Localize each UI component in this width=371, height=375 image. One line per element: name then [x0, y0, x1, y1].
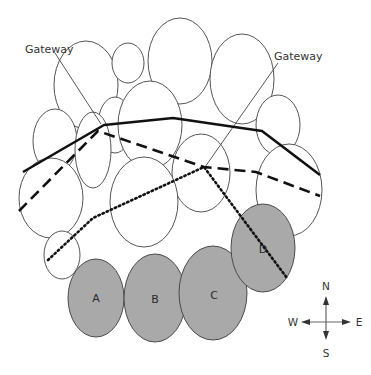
- cluster-diagram: Gateway Gateway A B C D N S W E: [0, 0, 371, 375]
- gateway-label-left: Gateway: [25, 43, 74, 56]
- zone-label-b: B: [151, 293, 159, 306]
- arrow-west-icon: [301, 319, 310, 325]
- compass-north-label: N: [322, 280, 330, 292]
- arrow-north-icon: [323, 296, 329, 305]
- cell: [44, 231, 80, 279]
- cell: [112, 43, 144, 83]
- zone-label-a: A: [92, 292, 100, 305]
- arrow-east-icon: [342, 319, 351, 325]
- cell: [172, 134, 230, 212]
- zone-label-d: D: [259, 243, 267, 256]
- compass-west-label: W: [288, 316, 299, 328]
- gateway-label-right: Gateway: [274, 50, 323, 63]
- zone-label-c: C: [210, 289, 218, 302]
- arrow-south-icon: [323, 331, 329, 340]
- shaded-zones: [68, 204, 295, 342]
- compass-rose: N S W E: [288, 280, 363, 359]
- compass-south-label: S: [323, 347, 330, 359]
- cell: [110, 157, 178, 247]
- compass-east-label: E: [356, 316, 363, 328]
